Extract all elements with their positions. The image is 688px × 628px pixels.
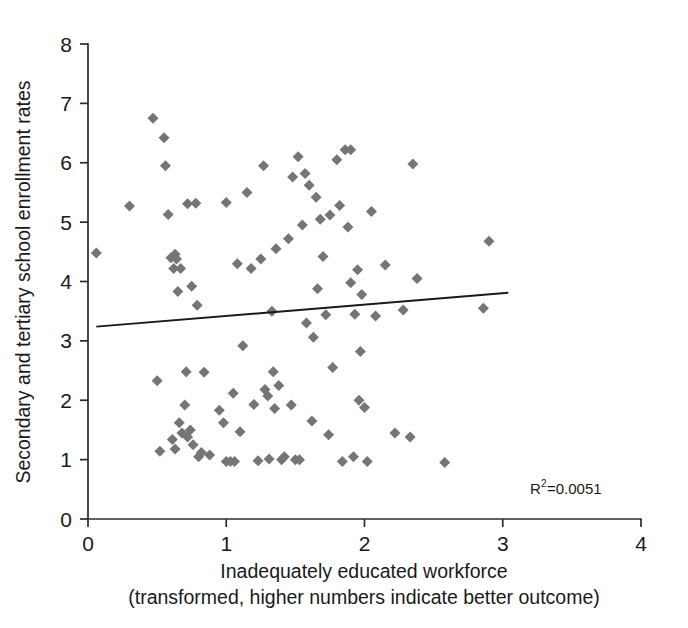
data-point-marker xyxy=(412,273,423,284)
data-point-marker xyxy=(352,264,363,275)
r-squared-value: =0.0051 xyxy=(547,480,602,497)
data-point-marker xyxy=(356,289,367,300)
data-point-marker xyxy=(214,405,225,416)
y-tick-label: 2 xyxy=(60,389,72,412)
data-point-marker xyxy=(172,286,183,297)
data-point-marker xyxy=(370,310,381,321)
x-tick-label: 2 xyxy=(359,532,371,555)
data-point-marker xyxy=(348,451,359,462)
data-point-marker xyxy=(478,303,489,314)
y-axis-title: Secondary and tertiary school enrollment… xyxy=(12,80,34,483)
data-point-marker xyxy=(221,197,232,208)
data-point-marker xyxy=(160,160,171,171)
data-point-marker xyxy=(124,201,135,212)
y-tick-label: 7 xyxy=(60,92,72,115)
data-point-marker xyxy=(147,113,158,124)
data-point-marker xyxy=(179,400,190,411)
trend-line xyxy=(96,293,508,327)
data-point-marker xyxy=(199,367,210,378)
x-tick-label: 4 xyxy=(635,532,647,555)
data-point-marker xyxy=(228,388,239,399)
data-point-marker xyxy=(349,309,360,320)
data-point-marker xyxy=(345,144,356,155)
data-point-marker xyxy=(268,366,279,377)
data-point-marker xyxy=(283,233,294,244)
data-point-marker xyxy=(271,243,282,254)
data-point-marker xyxy=(315,214,326,225)
data-point-marker xyxy=(366,206,377,217)
scatter-markers xyxy=(91,113,495,468)
x-tick-label: 0 xyxy=(82,532,94,555)
data-point-marker xyxy=(405,432,416,443)
data-point-marker xyxy=(286,400,297,411)
data-point-marker xyxy=(398,305,409,316)
data-point-marker xyxy=(91,248,102,259)
y-tick-label: 8 xyxy=(60,33,72,56)
data-point-marker xyxy=(235,426,246,437)
data-point-marker xyxy=(154,446,165,457)
axes: 012345678 01234 xyxy=(60,33,647,556)
data-point-marker xyxy=(320,309,331,320)
data-point-marker xyxy=(163,209,174,220)
data-point-marker xyxy=(301,318,312,329)
data-point-marker xyxy=(192,300,203,311)
data-point-marker xyxy=(297,220,308,231)
x-axis-ticks xyxy=(88,519,641,527)
data-point-marker xyxy=(327,362,338,373)
data-point-marker xyxy=(483,236,494,247)
r-squared-annotation: R 2 =0.0051 xyxy=(530,478,602,497)
data-point-marker xyxy=(188,439,199,450)
data-point-marker xyxy=(246,263,257,274)
data-point-marker xyxy=(331,154,342,165)
data-point-marker xyxy=(323,429,334,440)
data-point-marker xyxy=(318,251,329,262)
data-point-marker xyxy=(170,443,181,454)
data-point-marker xyxy=(300,168,311,179)
data-point-marker xyxy=(167,434,178,445)
y-axis-tick-labels: 012345678 xyxy=(60,33,72,531)
data-point-marker xyxy=(159,132,170,143)
data-point-marker xyxy=(237,340,248,351)
data-point-marker xyxy=(337,456,348,467)
data-point-marker xyxy=(308,332,319,343)
data-point-marker xyxy=(253,455,264,466)
data-point-marker xyxy=(181,366,192,377)
data-point-marker xyxy=(232,258,243,269)
y-tick-label: 4 xyxy=(60,270,72,293)
data-point-marker xyxy=(355,346,366,357)
x-axis-subtitle: (transformed, higher numbers indicate be… xyxy=(128,586,599,608)
data-point-marker xyxy=(174,417,185,428)
data-point-marker xyxy=(218,417,229,428)
data-point-marker xyxy=(345,277,356,288)
scatter-plot-figure: 012345678 01234 Secondary and tertiary s… xyxy=(0,0,688,628)
data-point-marker xyxy=(258,160,269,171)
data-point-marker xyxy=(175,263,186,274)
data-point-marker xyxy=(190,198,201,209)
data-point-marker xyxy=(439,457,450,468)
data-point-marker xyxy=(407,158,418,169)
y-tick-label: 5 xyxy=(60,211,72,234)
x-tick-label: 3 xyxy=(497,532,509,555)
r-squared-symbol: R xyxy=(530,480,541,497)
data-point-marker xyxy=(324,210,335,221)
y-tick-label: 0 xyxy=(60,508,72,531)
data-point-marker xyxy=(269,403,280,414)
data-point-marker xyxy=(241,187,252,198)
data-point-marker xyxy=(273,380,284,391)
data-point-marker xyxy=(186,281,197,292)
data-point-marker xyxy=(293,151,304,162)
data-point-marker xyxy=(264,454,275,465)
data-point-marker xyxy=(312,283,323,294)
y-tick-label: 3 xyxy=(60,329,72,352)
data-point-marker xyxy=(248,399,259,410)
data-point-marker xyxy=(311,192,322,203)
y-axis-ticks xyxy=(80,44,88,519)
data-point-marker xyxy=(255,253,266,264)
data-point-marker xyxy=(287,172,298,183)
data-point-marker xyxy=(204,449,215,460)
data-point-marker xyxy=(304,180,315,191)
data-point-marker xyxy=(334,200,345,211)
y-tick-label: 1 xyxy=(60,448,72,471)
x-axis-tick-labels: 01234 xyxy=(82,532,647,555)
data-point-marker xyxy=(380,259,391,270)
